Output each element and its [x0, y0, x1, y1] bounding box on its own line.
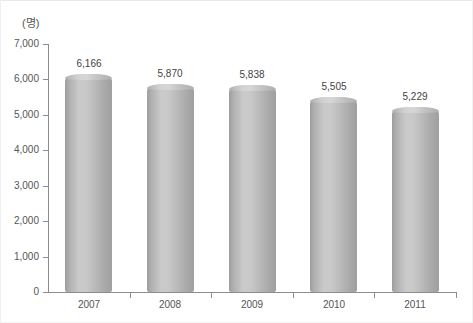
y-tick-0: 0: [0, 292, 48, 293]
y-tick-label: 1,000: [5, 252, 39, 262]
x-axis-label-2007: 2007: [59, 299, 119, 310]
y-tick-label: 6,000: [5, 74, 39, 84]
y-axis-unit-label: (명): [22, 14, 39, 30]
y-tick-4000: 4,000: [0, 150, 48, 151]
y-tick-5000: 5,000: [0, 115, 48, 116]
x-axis-label-2011: 2011: [385, 299, 445, 310]
bar-2010[interactable]: [310, 97, 357, 292]
bar-top-cap: [392, 107, 439, 113]
y-tick-label: 2,000: [5, 216, 39, 226]
y-tick-2000: 2,000: [0, 221, 48, 222]
y-tick-label: 4,000: [5, 145, 39, 155]
x-tick-mark: [374, 292, 375, 298]
y-tick-label: 0: [5, 287, 39, 297]
y-tick-label: 7,000: [5, 39, 39, 49]
x-axis-label-2008: 2008: [140, 299, 200, 310]
frame-top-border: [0, 0, 473, 1]
y-tick-mark: [43, 292, 48, 293]
x-axis-label-2009: 2009: [222, 299, 282, 310]
x-tick-mark: [456, 292, 457, 298]
bar-2009[interactable]: [229, 85, 276, 292]
bar-2007[interactable]: [65, 74, 112, 292]
bar-value-label-2010: 5,505: [304, 81, 364, 92]
y-tick-6000: 6,000: [0, 79, 48, 80]
x-tick-mark: [293, 292, 294, 298]
x-axis-label-2010: 2010: [304, 299, 364, 310]
bar-top-cap: [65, 74, 112, 80]
y-tick-mark: [43, 44, 48, 45]
y-axis-line: [48, 44, 49, 293]
y-tick-7000: 7,000: [0, 44, 48, 45]
y-tick-label: 3,000: [5, 181, 39, 191]
bar-top-cap: [147, 84, 194, 90]
frame-left-border: [0, 0, 1, 323]
bar-top-cap: [310, 97, 357, 103]
bar-value-label-2009: 5,838: [222, 69, 282, 80]
y-tick-mark: [43, 115, 48, 116]
x-tick-mark: [211, 292, 212, 298]
y-tick-mark: [43, 79, 48, 80]
bar-chart: (명) 01,0002,0003,0004,0005,0006,0007,000…: [0, 0, 473, 323]
x-tick-mark: [130, 292, 131, 298]
y-tick-mark: [43, 221, 48, 222]
y-tick-mark: [43, 186, 48, 187]
bar-top-cap: [229, 85, 276, 91]
y-tick-label: 5,000: [5, 110, 39, 120]
bar-value-label-2008: 5,870: [140, 68, 200, 79]
bar-2011[interactable]: [392, 107, 439, 292]
bar-2008[interactable]: [147, 84, 194, 292]
x-axis-line: [48, 292, 456, 293]
bar-value-label-2011: 5,229: [385, 91, 445, 102]
y-tick-mark: [43, 257, 48, 258]
y-tick-1000: 1,000: [0, 257, 48, 258]
y-tick-3000: 3,000: [0, 186, 48, 187]
y-tick-mark: [43, 150, 48, 151]
bar-value-label-2007: 6,166: [59, 58, 119, 69]
